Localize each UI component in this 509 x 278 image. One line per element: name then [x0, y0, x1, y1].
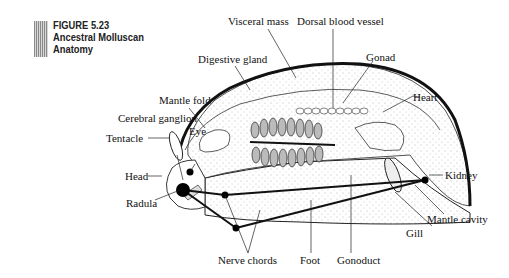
tentacle: [167, 130, 186, 162]
label-gonad: Gonad: [366, 51, 396, 63]
label-dorsal-blood-vessel: Dorsal blood vessel: [297, 15, 384, 27]
label-gonoduct: Gonoduct: [337, 254, 380, 266]
label-gill: Gill: [406, 227, 423, 239]
label-tentacle: Tentacle: [106, 132, 143, 144]
label-radula: Radula: [126, 197, 157, 209]
label-kidney: Kidney: [445, 169, 478, 181]
label-eye: Eye: [189, 125, 206, 137]
label-foot: Foot: [300, 254, 320, 266]
kidney: [422, 177, 429, 184]
label-mantle-cavity: Mantle cavity: [427, 213, 488, 225]
label-digestive-gland: Digestive gland: [198, 53, 268, 65]
label-nerve-chords: Nerve chords: [218, 254, 277, 266]
label-head: Head: [125, 170, 149, 182]
mollusc-anatomy-diagram: Visceral mass Dorsal blood vessel Digest…: [0, 0, 509, 278]
label-cerebral-ganglion: Cerebral ganglion: [118, 112, 198, 124]
cerebral-ganglion: [176, 183, 190, 197]
label-visceral-mass: Visceral mass: [228, 15, 289, 27]
label-mantle-fold: Mantle fold: [159, 94, 211, 106]
gonad: [296, 108, 368, 114]
label-heart: Heart: [413, 91, 437, 103]
